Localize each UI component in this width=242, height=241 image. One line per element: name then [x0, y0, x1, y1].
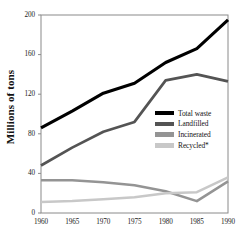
legend-item-label: Total waste [178, 109, 211, 118]
x-tick-label: 1985 [184, 218, 210, 226]
legend-item: Recycled* [155, 141, 233, 149]
legend-swatch-icon [155, 111, 174, 116]
legend-item: Incinerated [155, 131, 233, 139]
x-tick-label: 1990 [215, 218, 241, 226]
legend-swatch-icon [155, 122, 174, 127]
x-tick-label: 1965 [59, 218, 85, 226]
legend-item-label: Incinerated [178, 130, 211, 139]
x-tick-label: 1960 [28, 218, 54, 226]
legend-item: Total waste [155, 109, 233, 117]
x-tick-label: 1980 [153, 218, 179, 226]
y-tick-label: 40 [15, 169, 35, 177]
legend-swatch-icon [155, 132, 174, 137]
legend-item: Landfilled [155, 120, 233, 128]
legend-item-label: Recycled* [178, 141, 209, 150]
y-tick-label: 160 [15, 50, 35, 58]
y-tick-label: 120 [15, 90, 35, 98]
waste-trends-line-chart: Millions of tons 20016012080400 19601965… [0, 0, 242, 241]
legend-item-label: Landfilled [178, 119, 208, 128]
y-tick-label: 200 [15, 11, 35, 19]
x-tick-label: 1975 [122, 218, 148, 226]
y-tick-label: 80 [15, 130, 35, 138]
y-tick-label: 0 [15, 209, 35, 217]
chart-legend: Total wasteLandfilledIncineratedRecycled… [155, 109, 233, 152]
legend-swatch-icon [155, 143, 174, 148]
x-tick-label: 1970 [90, 218, 116, 226]
